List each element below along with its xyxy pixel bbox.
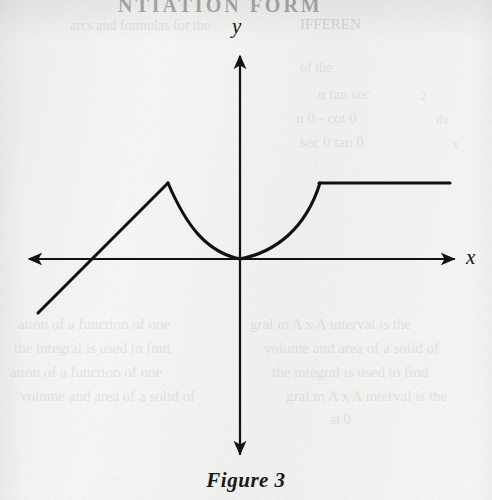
figure-caption: Figure 3 bbox=[0, 468, 492, 493]
curve-right-ascending-arc bbox=[240, 183, 320, 259]
y-axis-label: y bbox=[232, 14, 241, 39]
curve-left-descending-arc bbox=[168, 183, 240, 259]
curve-left-linear-ray bbox=[38, 183, 168, 313]
figure-graph bbox=[0, 0, 492, 500]
x-axis-label: x bbox=[466, 245, 475, 270]
scanned-page: NTIATION FORM IFFEREN arcs and formulas … bbox=[0, 0, 492, 500]
